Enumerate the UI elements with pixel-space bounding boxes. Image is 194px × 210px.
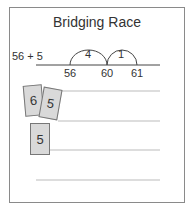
jump-label-1: 4: [85, 48, 91, 60]
jump-label-2: 1: [118, 48, 124, 60]
tick-label-56: 56: [64, 67, 76, 79]
tick-label-60: 60: [101, 67, 113, 79]
tick-label-61: 61: [131, 67, 143, 79]
number-card-5-placed[interactable]: 5: [30, 123, 50, 155]
